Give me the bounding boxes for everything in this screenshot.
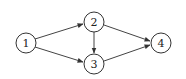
- node-3-label: 3: [91, 58, 98, 71]
- node-4-label: 4: [158, 37, 165, 50]
- edge-1-to-3: [35, 47, 83, 62]
- node-1-label: 1: [23, 37, 30, 50]
- edge-3-to-4: [104, 45, 150, 61]
- node-2: 2: [84, 12, 104, 32]
- node-4: 4: [151, 33, 171, 53]
- node-1: 1: [16, 33, 36, 53]
- node-3: 3: [84, 54, 104, 74]
- node-2-label: 2: [91, 16, 98, 29]
- edge-2-to-4: [104, 25, 150, 41]
- graph-diagram: 1 2 3 4: [0, 0, 186, 79]
- edge-1-to-2: [35, 24, 83, 39]
